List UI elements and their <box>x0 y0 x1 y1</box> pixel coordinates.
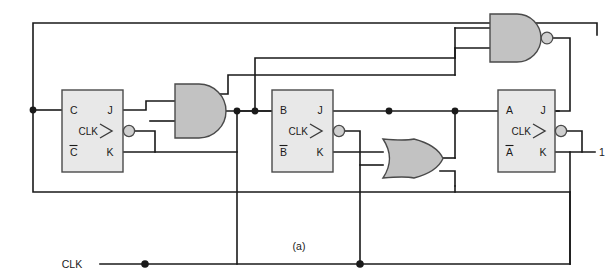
flip-flop-c[interactable]: C J CLK C K <box>62 90 135 172</box>
figure-caption: (a) <box>293 240 306 252</box>
flip-flop-c-label-qbar: C <box>70 146 78 158</box>
flip-flop-c-label-j: J <box>107 104 112 116</box>
nand-gate-inversion-bubble-icon <box>541 32 553 44</box>
flip-flop-a-clock-inversion-bubble-icon <box>555 125 566 136</box>
flip-flop-a-label-k: K <box>539 146 546 158</box>
junction-dot <box>30 107 37 114</box>
flip-flop-a-label-qbar: A <box>506 146 513 158</box>
flip-flop-c-clock-inversion-bubble-icon <box>123 125 134 136</box>
clock-input-label: CLK <box>62 258 82 270</box>
wire-or-out-down <box>440 171 455 186</box>
nand-gate-body[interactable] <box>490 14 541 62</box>
flip-flop-b-clock-inversion-bubble-icon <box>333 125 344 136</box>
junction-dot <box>452 108 459 115</box>
junction-dot <box>356 260 364 268</box>
wire-ffb-clk <box>345 131 360 264</box>
constant-one-label: 1 <box>599 146 605 158</box>
flip-flop-a[interactable]: A J CLK A K <box>498 90 567 172</box>
or-gate-body[interactable] <box>383 139 443 178</box>
junction-dot <box>234 108 241 115</box>
wire-ffc-clk <box>135 131 155 152</box>
flip-flop-b-label-q: B <box>280 104 287 116</box>
flip-flop-c-label-clk: CLK <box>79 126 99 137</box>
wire-ffc-j-to-and <box>123 101 175 110</box>
flip-flop-b-label-j: J <box>317 104 322 116</box>
nand-gate[interactable] <box>490 14 553 62</box>
wire-ffa-clk <box>567 131 582 152</box>
flip-flop-a-label-q: A <box>506 104 513 116</box>
or-gate[interactable] <box>383 139 443 178</box>
figure-canvas: C J CLK C K B J CLK B K A J <box>0 0 613 277</box>
and-gate-body[interactable] <box>175 84 226 138</box>
flip-flop-b-label-k: K <box>316 146 323 158</box>
circuit-diagram: C J CLK C K B J CLK B K A J <box>0 0 613 277</box>
flip-flop-c-label-k: K <box>106 146 113 158</box>
junction-dot <box>141 260 149 268</box>
wire-and-top-step <box>216 75 455 94</box>
flip-flop-b[interactable]: B J CLK B K <box>272 90 345 172</box>
junction-dot <box>252 108 259 115</box>
flip-flop-b-label-qbar: B <box>280 146 287 158</box>
flip-flop-a-label-clk: CLK <box>512 126 532 137</box>
flip-flop-a-label-j: J <box>540 104 545 116</box>
flip-flop-c-label-q: C <box>70 104 78 116</box>
flip-flop-b-label-clk: CLK <box>289 126 309 137</box>
junction-dot <box>386 108 393 115</box>
and-gate[interactable] <box>175 84 226 138</box>
